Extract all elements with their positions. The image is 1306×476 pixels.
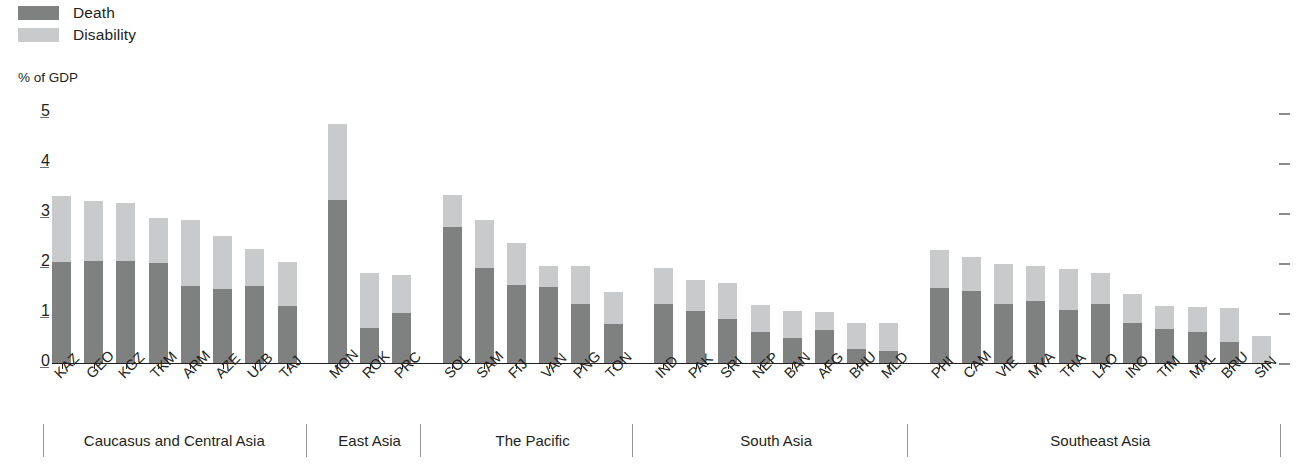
bar-segment-disability	[654, 268, 673, 305]
bar-phi	[930, 250, 949, 364]
bar-segment-disability	[962, 257, 981, 291]
legend-label-death: Death	[73, 4, 115, 22]
bar-rok	[360, 273, 379, 363]
group-label-south-asia: South Asia	[645, 432, 908, 449]
y-axis-tick-mark	[40, 117, 49, 118]
y-axis-tick-mark	[40, 167, 49, 168]
bar-segment-disability	[930, 250, 949, 288]
y-axis-tick-mark	[40, 367, 49, 368]
bar-aze	[213, 236, 232, 363]
bar-segment-disability	[1188, 307, 1207, 332]
bar-mon	[328, 124, 347, 363]
bar-segment-disability	[1091, 273, 1110, 305]
bar-segment-disability	[1155, 306, 1174, 330]
bar-segment-death	[84, 261, 103, 364]
group-separator	[907, 424, 908, 457]
group-separator	[420, 424, 421, 457]
legend-swatch-death	[18, 6, 59, 20]
bar-segment-death	[507, 285, 526, 363]
plot-area	[52, 113, 1271, 363]
bar-kgz	[116, 203, 135, 363]
stacked-bar-chart: Death Disability % of GDP 012345 KAZGEOK…	[0, 0, 1306, 476]
bar-segment-disability	[847, 323, 866, 349]
bar-arm	[181, 220, 200, 363]
bar-segment-disability	[1220, 308, 1239, 342]
bar-segment-disability	[116, 203, 135, 261]
bar-segment-disability	[360, 273, 379, 328]
bar-segment-disability	[718, 283, 737, 319]
y-axis-tick-mark	[40, 267, 49, 268]
group-label-caucasus-and-central-asia: Caucasus and Central Asia	[43, 432, 306, 449]
bar-segment-disability	[686, 280, 705, 311]
bar-segment-disability	[1123, 294, 1142, 323]
bar-segment-disability	[1026, 266, 1045, 301]
legend-label-disability: Disability	[73, 26, 136, 44]
y-axis-title: % of GDP	[18, 70, 78, 85]
bar-segment-disability	[443, 195, 462, 227]
bar-segment-death	[52, 262, 71, 363]
bar-segment-disability	[783, 311, 802, 339]
bar-segment-disability	[52, 196, 71, 262]
legend-item-disability: Disability	[18, 24, 136, 46]
bar-fij	[507, 243, 526, 364]
bar-segment-disability	[213, 236, 232, 289]
bar-segment-disability	[879, 323, 898, 351]
bar-pak	[686, 280, 705, 364]
y-axis-tick-mark	[40, 217, 49, 218]
bar-segment-disability	[751, 305, 770, 332]
bar-segment-disability	[475, 220, 494, 268]
group-label-east-asia: East Asia	[319, 432, 420, 449]
bar-geo	[84, 201, 103, 363]
group-separator	[306, 424, 307, 457]
bar-segment-death	[116, 261, 135, 363]
group-band: Caucasus and Central AsiaEast AsiaThe Pa…	[0, 424, 1306, 462]
bar-segment-disability	[181, 220, 200, 286]
bar-segment-disability	[392, 275, 411, 314]
legend-item-death: Death	[18, 2, 136, 24]
legend-swatch-disability	[18, 28, 59, 42]
bar-segment-disability	[604, 292, 623, 325]
bar-segment-disability	[994, 264, 1013, 304]
right-axis-tick-mark	[1279, 313, 1290, 315]
right-axis-tick-mark	[1279, 163, 1290, 165]
bar-segment-disability	[328, 124, 347, 200]
bar-kaz	[52, 196, 71, 363]
bar-segment-disability	[507, 243, 526, 286]
y-axis-tick-mark	[40, 317, 49, 318]
bar-segment-death	[149, 263, 168, 364]
bar-segment-death	[328, 200, 347, 364]
bar-uzb	[245, 249, 264, 364]
bar-segment-disability	[245, 249, 264, 286]
group-separator	[632, 424, 633, 457]
bar-segment-disability	[278, 262, 297, 306]
right-axis-tick-mark	[1279, 263, 1290, 265]
bar-vie	[994, 264, 1013, 363]
bar-segment-disability	[149, 218, 168, 263]
bars-container	[52, 113, 1271, 363]
bar-van	[539, 266, 558, 364]
bar-prc	[392, 275, 411, 364]
bar-segment-death	[930, 288, 949, 364]
bar-lao	[1091, 273, 1110, 364]
bar-taj	[278, 262, 297, 363]
group-label-southeast-asia: Southeast Asia	[921, 432, 1280, 449]
right-axis-tick-mark	[1279, 213, 1290, 215]
bar-segment-disability	[815, 312, 834, 330]
bar-segment-disability	[571, 266, 590, 304]
bar-sri	[718, 283, 737, 363]
right-axis-tick-mark	[1279, 113, 1290, 115]
bar-segment-disability	[84, 201, 103, 261]
bar-png	[571, 266, 590, 363]
bar-segment-death	[443, 227, 462, 364]
group-label-the-pacific: The Pacific	[434, 432, 632, 449]
bar-tkm	[149, 218, 168, 364]
bar-ind	[654, 268, 673, 364]
bar-cam	[962, 257, 981, 363]
bar-sol	[443, 195, 462, 363]
bar-segment-death	[475, 268, 494, 364]
bar-sam	[475, 220, 494, 363]
bar-segment-disability	[1059, 269, 1078, 310]
right-axis-tick-mark	[1279, 363, 1290, 365]
group-separator	[1280, 424, 1281, 457]
bar-mya	[1026, 266, 1045, 363]
